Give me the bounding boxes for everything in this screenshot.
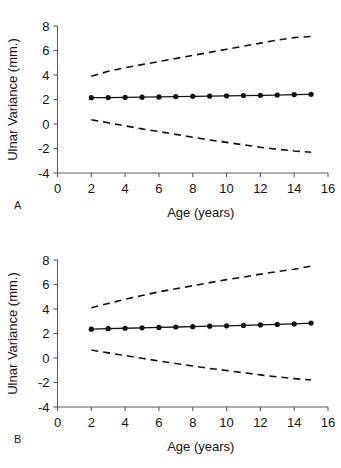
chart-panel-b: -4-2024680246810121416Age (years)Ulnar V… <box>0 234 341 468</box>
data-point-marker <box>156 325 161 330</box>
y-tick-label: 6 <box>42 277 49 292</box>
x-tick-label: 10 <box>219 415 233 430</box>
x-tick-label: 8 <box>189 415 196 430</box>
x-axis-title: Age (years) <box>167 439 234 454</box>
x-axis-title: Age (years) <box>167 205 234 220</box>
data-point-marker <box>241 93 246 98</box>
x-tick-label: 6 <box>155 181 162 196</box>
x-tick-label: 16 <box>321 181 335 196</box>
data-point-marker <box>190 324 195 329</box>
data-point-marker <box>258 93 263 98</box>
y-tick-label: -4 <box>38 166 50 181</box>
data-point-marker <box>207 324 212 329</box>
data-point-marker <box>292 321 297 326</box>
data-point-marker <box>106 326 111 331</box>
data-point-marker <box>224 323 229 328</box>
chart-panel-a: -4-2024680246810121416Age (years)Ulnar V… <box>0 0 341 234</box>
x-tick-label: 2 <box>88 415 95 430</box>
y-tick-label: 4 <box>42 302 49 317</box>
x-tick-label: 6 <box>155 415 162 430</box>
panel-letter-a: A <box>14 200 22 211</box>
y-tick-label: -2 <box>38 375 50 390</box>
x-tick-label: 4 <box>122 415 129 430</box>
data-point-marker <box>173 94 178 99</box>
data-point-marker <box>275 322 280 327</box>
x-tick-label: 0 <box>54 181 61 196</box>
y-axis-title: Ulnar Variance (mm.) <box>5 272 20 395</box>
data-point-marker <box>139 325 144 330</box>
x-tick-label: 14 <box>287 415 301 430</box>
x-tick-label: 8 <box>189 181 196 196</box>
x-tick-label: 12 <box>253 181 267 196</box>
data-point-marker <box>156 94 161 99</box>
x-tick-label: 0 <box>54 415 61 430</box>
data-point-marker <box>123 95 128 100</box>
data-point-marker <box>308 92 313 97</box>
chart-canvas-a: -4-2024680246810121416Age (years)Ulnar V… <box>0 0 341 234</box>
data-point-marker <box>89 327 94 332</box>
data-point-marker <box>173 324 178 329</box>
x-tick-label: 12 <box>253 415 267 430</box>
y-tick-label: 4 <box>42 68 49 83</box>
x-tick-label: 2 <box>88 181 95 196</box>
y-tick-label: -4 <box>38 400 50 415</box>
y-tick-label: 8 <box>42 19 49 34</box>
data-point-marker <box>207 93 212 98</box>
ulnar-variance-figure: -4-2024680246810121416Age (years)Ulnar V… <box>0 0 341 468</box>
chart-canvas-b: -4-2024680246810121416Age (years)Ulnar V… <box>0 234 341 468</box>
x-tick-label: 14 <box>287 181 301 196</box>
y-tick-label: 0 <box>42 117 49 132</box>
x-tick-label: 16 <box>321 415 335 430</box>
y-tick-label: 6 <box>42 43 49 58</box>
confidence-limit-line <box>91 266 311 308</box>
y-tick-label: 2 <box>42 326 49 341</box>
y-axis-title: Ulnar Variance (mm.) <box>5 38 20 161</box>
x-tick-label: 4 <box>122 181 129 196</box>
data-point-marker <box>190 94 195 99</box>
y-tick-label: 0 <box>42 351 49 366</box>
data-point-marker <box>224 93 229 98</box>
data-point-marker <box>139 95 144 100</box>
data-point-marker <box>308 320 313 325</box>
y-tick-label: -2 <box>38 141 50 156</box>
y-tick-label: 2 <box>42 92 49 107</box>
confidence-limit-line <box>91 36 311 76</box>
confidence-limit-line <box>91 120 311 152</box>
data-point-marker <box>258 322 263 327</box>
confidence-limit-line <box>91 350 311 380</box>
data-point-marker <box>275 92 280 97</box>
data-point-marker <box>89 95 94 100</box>
data-point-marker <box>292 92 297 97</box>
data-point-marker <box>106 95 111 100</box>
data-point-marker <box>123 326 128 331</box>
panel-letter-b: B <box>14 434 22 445</box>
data-point-marker <box>241 323 246 328</box>
y-tick-label: 8 <box>42 253 49 268</box>
x-tick-label: 10 <box>219 181 233 196</box>
